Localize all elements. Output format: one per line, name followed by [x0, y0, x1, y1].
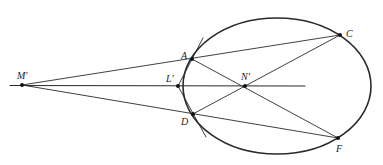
line-m-f — [22, 85, 338, 138]
point-m — [20, 83, 24, 87]
point-a — [190, 57, 194, 61]
label-n: N' — [240, 71, 251, 82]
label-d: D — [180, 116, 189, 127]
tangent-line-a — [178, 38, 203, 86]
point-d — [191, 112, 195, 116]
point-f — [336, 136, 340, 140]
point-l — [176, 84, 180, 88]
point-c — [338, 33, 342, 37]
label-m: M' — [16, 70, 28, 81]
label-l: L' — [165, 73, 175, 84]
label-a: A — [180, 50, 188, 61]
label-c: C — [346, 28, 353, 39]
point-n — [243, 84, 247, 88]
ellipse-pole-polar-diagram: M' L' A D N' C F — [0, 0, 383, 165]
label-f: F — [335, 143, 343, 154]
axis-line — [10, 86, 305, 87]
